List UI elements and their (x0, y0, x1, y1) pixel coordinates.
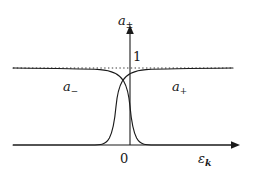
curve-label-a-minus-base: a (63, 79, 71, 94)
y-axis-label-base: a (118, 13, 126, 28)
x-axis-label-subscript: k (205, 157, 211, 168)
y-axis-label: a± (118, 14, 133, 30)
curve-label-a-plus-base: a (172, 79, 180, 94)
origin-tick-zero: 0 (120, 152, 128, 165)
curve-a-plus (13, 68, 233, 145)
curve-label-a-plus-subscript: + (180, 86, 187, 96)
x-axis-label: εk (198, 152, 211, 168)
figure-root: a± εk a− a+ 1 0 (0, 0, 258, 177)
curve-label-a-minus: a− (63, 80, 78, 96)
y-axis-label-subscript: ± (126, 20, 133, 30)
y-axis-tick-one: 1 (133, 50, 141, 63)
x-axis-label-base: ε (198, 151, 205, 166)
curve-label-a-plus: a+ (172, 80, 187, 96)
curve-label-a-minus-subscript: − (71, 86, 78, 96)
